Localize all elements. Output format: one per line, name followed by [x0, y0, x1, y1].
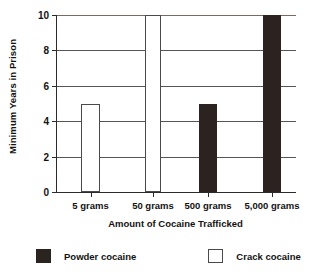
y-tick-mark-10	[52, 15, 57, 16]
plot-area: 10 8 6 4 2 0 5 grams 50 grams 500 grams …	[56, 15, 296, 193]
y-tick-mark-2	[52, 157, 57, 158]
bar-5000-grams	[263, 15, 281, 192]
x-tick-label-5000-grams: 5,000 grams	[245, 200, 300, 211]
bar-chart-figure: Minimum Years in Prison 10 8 6 4 2 0	[0, 0, 316, 277]
legend-entry-powder-cocaine: Powder cocaine	[36, 249, 136, 263]
y-axis-title-text: Minimum Years in Prison	[8, 38, 19, 153]
legend-swatch-powder-icon	[36, 249, 51, 263]
bar-50-grams	[145, 15, 161, 192]
y-tick-label-10: 10	[38, 10, 49, 21]
x-tick-label-5-grams: 5 grams	[72, 200, 108, 211]
x-tick-mark-5000-grams	[272, 192, 273, 197]
y-tick-label-6: 6	[43, 80, 49, 91]
chart-legend: Powder cocaine Crack cocaine	[36, 249, 280, 263]
gridline-6	[57, 86, 296, 87]
bar-5-grams	[81, 104, 100, 193]
y-axis-title: Minimum Years in Prison	[4, 0, 22, 192]
legend-label-crack: Crack cocaine	[236, 251, 300, 262]
y-tick-label-2: 2	[43, 151, 49, 162]
gridline-8	[57, 50, 296, 51]
y-tick-label-8: 8	[43, 45, 49, 56]
x-tick-label-50-grams: 50 grams	[132, 200, 174, 211]
x-tick-mark-500-grams	[208, 192, 209, 197]
legend-swatch-crack-icon	[208, 249, 223, 263]
y-tick-label-0: 0	[43, 187, 49, 198]
x-tick-mark-5-grams	[91, 192, 92, 197]
y-tick-mark-8	[52, 50, 57, 51]
y-tick-mark-0	[52, 192, 57, 193]
legend-entry-crack-cocaine: Crack cocaine	[208, 249, 300, 263]
x-tick-label-500-grams: 500 grams	[184, 200, 231, 211]
legend-label-powder: Powder cocaine	[64, 251, 136, 262]
x-tick-mark-50-grams	[153, 192, 154, 197]
gridline-10	[57, 15, 296, 16]
y-tick-label-4: 4	[43, 116, 49, 127]
x-axis-title: Amount of Cocaine Trafficked	[56, 218, 295, 229]
y-tick-mark-6	[52, 86, 57, 87]
y-tick-mark-4	[52, 121, 57, 122]
bar-500-grams	[199, 104, 217, 193]
